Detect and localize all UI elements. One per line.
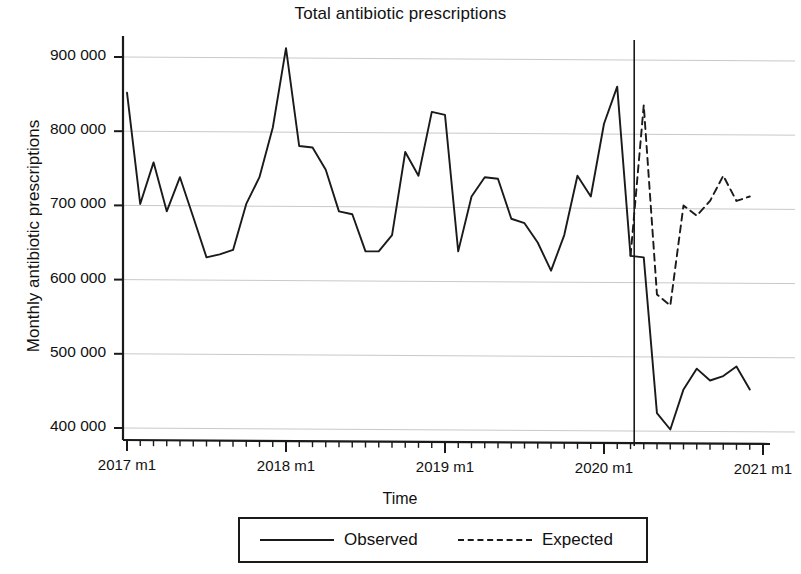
gridline [123, 354, 795, 358]
y-axis-tick-label: 500 000 [0, 343, 106, 361]
x-axis-tick-label: 2017 m1 [67, 456, 187, 473]
x-axis-tick-label: 2019 m1 [385, 458, 505, 475]
x-axis-label: Time [320, 490, 480, 508]
y-axis-tick-label: 400 000 [0, 417, 106, 435]
series-line-observed [127, 48, 750, 429]
gridline [123, 131, 795, 135]
chart-figure: Total antibiotic prescriptions Monthly a… [0, 0, 801, 574]
y-axis-tick-label: 900 000 [0, 46, 106, 64]
gridline [123, 428, 795, 432]
legend-item-observed: Observed [260, 530, 418, 550]
legend-label-observed: Observed [344, 530, 418, 550]
x-axis-tick-label: 2020 m1 [544, 459, 664, 476]
y-axis-tick-label: 800 000 [0, 120, 106, 138]
y-axis-tick-label: 600 000 [0, 269, 106, 287]
x-axis-tick-label: 2018 m1 [226, 457, 346, 474]
x-axis-tick-label: 2021 m1 [703, 460, 801, 477]
legend-swatch-dashed-icon [458, 539, 532, 541]
y-axis-label: Monthly antibiotic prescriptions [24, 36, 44, 436]
gridline [123, 205, 795, 209]
gridline [123, 280, 795, 284]
chart-title: Total antibiotic prescriptions [0, 4, 801, 24]
legend-label-expected: Expected [542, 530, 613, 550]
gridline [123, 57, 795, 61]
chart-legend: Observed Expected [238, 517, 648, 563]
legend-swatch-solid-icon [260, 539, 334, 541]
legend-item-expected: Expected [458, 530, 613, 550]
plot-area [0, 0, 801, 574]
y-axis-tick-label: 700 000 [0, 194, 106, 212]
